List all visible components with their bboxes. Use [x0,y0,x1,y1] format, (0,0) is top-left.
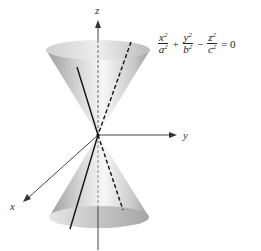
z-fraction: z2 c2 [207,32,217,55]
x-fraction: x2 a2 [158,32,168,55]
x-arrow-icon [23,194,31,202]
y-axis-label: y [182,129,188,141]
lower-nappe [49,135,149,228]
equation-rhs: = 0 [221,38,235,50]
z-arrow-icon [95,20,101,28]
y-fraction: y2 b2 [183,32,193,55]
vertex-point [96,133,99,136]
x-axis-label: x [9,200,15,212]
y-arrow-icon [169,132,177,138]
cone-equation: x2 a2 + y2 b2 − z2 c2 = 0 [158,32,235,55]
minus-operator: − [197,38,203,50]
plus-operator: + [172,38,178,50]
y-axis [98,132,177,138]
z-axis-label: z [94,4,100,16]
